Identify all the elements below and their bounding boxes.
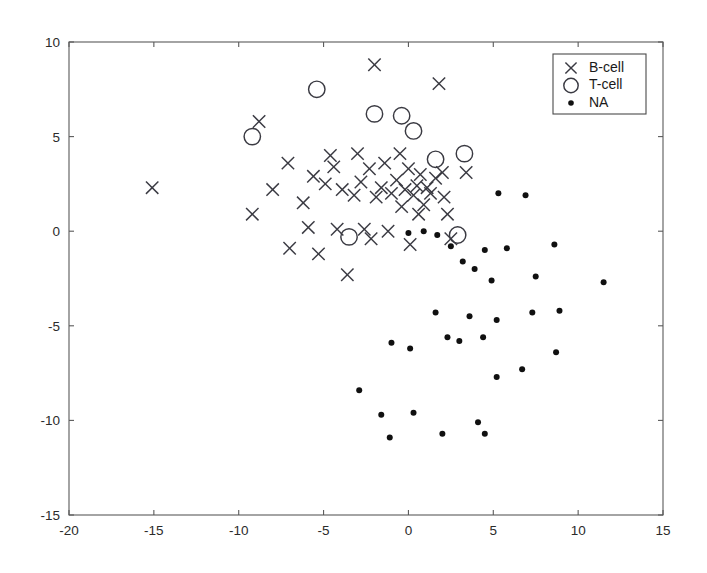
data-point-na [434,232,440,238]
data-point-bcell [146,181,158,193]
scatter-plot-figure: -20-15-10-5051015-15-10-50510 B-cellT-ce… [0,0,707,573]
x-tick-label: -5 [318,523,330,538]
data-point-na [472,266,478,272]
data-point-na [556,308,562,314]
y-tick-label: -10 [40,413,60,428]
plot-canvas: -20-15-10-5051015-15-10-50510 B-cellT-ce… [0,0,707,573]
x-tick-label: 0 [405,523,413,538]
data-point-na [439,431,445,437]
data-point-bcell [363,163,375,175]
data-point-na [551,241,557,247]
data-point-bcell [382,225,394,237]
data-point-na [387,434,393,440]
data-point-na [482,247,488,253]
data-point-na [489,277,495,283]
data-point-bcell [433,77,445,89]
data-point-bcell [395,200,407,212]
data-point-tcell [309,81,325,97]
data-point-tcell [405,123,421,139]
data-series-markers [146,59,607,441]
y-tick-label: -5 [48,319,60,334]
data-point-bcell [438,191,450,203]
data-point-tcell [393,108,409,124]
data-point-na [494,374,500,380]
data-point-na [494,317,500,323]
data-point-tcell [341,229,357,245]
x-tick-label: -15 [144,523,164,538]
data-point-na [533,274,539,280]
data-point-na [504,245,510,251]
data-point-bcell [348,189,360,201]
data-point-tcell [449,227,465,243]
data-point-bcell [365,233,377,245]
data-point-na [405,230,411,236]
data-point-bcell [328,161,340,173]
legend-label: T-cell [589,76,622,92]
data-point-na [553,349,559,355]
data-point-bcell [358,223,370,235]
data-point-bcell [283,242,295,254]
data-point-bcell [253,115,265,127]
data-point-na [475,419,481,425]
data-point-na [523,192,529,198]
data-point-bcell [351,147,363,159]
data-point-na [407,346,413,352]
y-tick-label: -15 [40,508,60,523]
data-point-bcell [297,197,309,209]
data-point-bcell [378,157,390,169]
data-point-bcell [266,183,278,195]
x-tick-label: -10 [229,523,249,538]
data-point-bcell [341,269,353,281]
legend-label: NA [589,94,609,110]
series-t-cell [244,81,473,245]
data-point-tcell [427,151,443,167]
legend: B-cellT-cellNA [553,54,646,114]
data-point-bcell [324,149,336,161]
data-point-na [480,334,486,340]
data-point-na [460,258,466,264]
data-point-bcell [399,183,411,195]
data-point-bcell [404,238,416,250]
data-point-bcell [436,166,448,178]
data-point-bcell [336,183,348,195]
data-point-na [448,243,454,249]
data-point-bcell [282,157,294,169]
data-point-bcell [394,147,406,159]
data-point-na [444,334,450,340]
data-point-bcell [246,208,258,220]
data-point-tcell [366,106,382,122]
data-point-bcell [441,208,453,220]
legend-label: B-cell [589,59,624,75]
data-point-na [482,431,488,437]
data-point-bcell [429,172,441,184]
data-point-bcell [319,178,331,190]
data-point-bcell [312,248,324,260]
data-point-na [378,412,384,418]
data-point-na [519,366,525,372]
data-point-na [421,228,427,234]
data-point-bcell [424,187,436,199]
data-point-na [411,410,417,416]
data-point-bcell [460,166,472,178]
y-tick-label: 5 [52,130,60,145]
data-point-na [388,340,394,346]
x-tick-label: -20 [59,523,79,538]
data-point-bcell [307,170,319,182]
data-point-bcell [355,176,367,188]
data-point-na [456,338,462,344]
data-point-na [356,387,362,393]
data-point-bcell [414,168,426,180]
data-point-bcell [402,163,414,175]
data-point-bcell [302,221,314,233]
data-point-tcell [456,145,472,161]
data-point-bcell [368,59,380,71]
series-na [356,190,606,440]
data-point-na [601,279,607,285]
data-point-na [495,190,501,196]
data-point-na [433,310,439,316]
y-tick-label: 0 [52,224,60,239]
data-point-na [529,310,535,316]
legend-marker-na-icon [568,100,574,106]
x-tick-label: 15 [655,523,670,538]
data-point-na [467,313,473,319]
